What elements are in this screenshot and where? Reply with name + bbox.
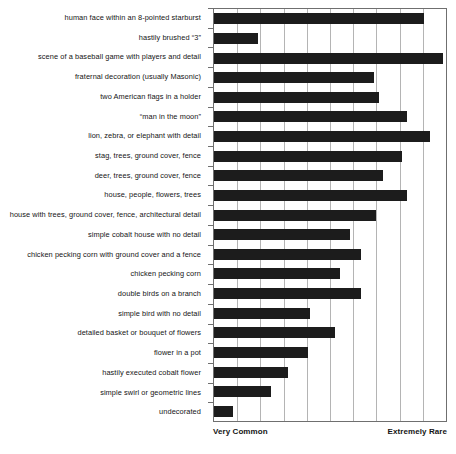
bar-row	[214, 107, 446, 127]
category-label: detailed basket or bouquet of flowers	[0, 324, 207, 344]
category-label: house, people, flowers, trees	[0, 185, 207, 205]
tick-slot	[205, 324, 213, 344]
bar-row	[214, 68, 446, 88]
tick-slot	[205, 245, 213, 265]
bar-row	[214, 88, 446, 108]
bar	[214, 170, 383, 181]
category-label: flower in a pot	[0, 343, 207, 363]
bar-row	[214, 343, 446, 363]
axis-caption-right: Extremely Rare	[388, 427, 447, 436]
category-label: simple swirl or geometric lines	[0, 383, 207, 403]
bar-row	[214, 225, 446, 245]
category-label: two American flags in a holder	[0, 87, 207, 107]
bar	[214, 367, 288, 378]
bar	[214, 386, 271, 397]
tick-slot	[205, 343, 213, 363]
tick-slot	[205, 126, 213, 146]
category-label: hastily brushed “3”	[0, 28, 207, 48]
tick-slot	[205, 87, 213, 107]
bar	[214, 33, 258, 44]
category-label: house with trees, ground cover, fence, a…	[0, 205, 207, 225]
category-label: simple cobalt house with no detail	[0, 225, 207, 245]
tick-slot	[205, 8, 213, 28]
category-label: human face within an 8-pointed starburst	[0, 8, 207, 28]
bar	[214, 190, 407, 201]
bar	[214, 288, 361, 299]
bar-row	[214, 264, 446, 284]
bar	[214, 72, 374, 83]
bar-row	[214, 284, 446, 304]
bar	[214, 406, 233, 417]
tick-slot	[205, 402, 213, 422]
tick-slot	[205, 225, 213, 245]
category-label: deer, trees, ground cover, fence	[0, 166, 207, 186]
category-label: hastily executed cobalt flower	[0, 363, 207, 383]
tick-slot	[205, 185, 213, 205]
category-label: chicken pecking corn with ground cover a…	[0, 245, 207, 265]
bar	[214, 229, 350, 240]
category-label: chicken pecking corn	[0, 264, 207, 284]
bar	[214, 131, 430, 142]
category-label: simple bird with no detail	[0, 304, 207, 324]
bar-row	[214, 362, 446, 382]
category-label: fraternal decoration (usually Masonic)	[0, 67, 207, 87]
bar	[214, 210, 376, 221]
tick-slot	[205, 28, 213, 48]
bar	[214, 92, 379, 103]
category-label: undecorated	[0, 402, 207, 422]
tick-slot	[205, 205, 213, 225]
bar-row	[214, 402, 446, 422]
bar	[214, 111, 407, 122]
bar-row	[214, 205, 446, 225]
bar	[214, 249, 361, 260]
axis-caption-left: Very Common	[213, 427, 268, 436]
tick-slot	[205, 67, 213, 87]
category-label: stag, trees, ground cover, fence	[0, 146, 207, 166]
tick-slot	[205, 363, 213, 383]
category-label-column: human face within an 8-pointed starburst…	[0, 8, 207, 422]
bar-row	[214, 186, 446, 206]
tick-slot	[205, 107, 213, 127]
bar	[214, 347, 308, 358]
category-label: double birds on a branch	[0, 284, 207, 304]
bar-row	[214, 245, 446, 265]
bar	[214, 151, 402, 162]
bar-row	[214, 382, 446, 402]
bar	[214, 53, 443, 64]
bar-row	[214, 146, 446, 166]
bar-row	[214, 48, 446, 68]
bar	[214, 308, 310, 319]
bar	[214, 327, 335, 338]
bar	[214, 13, 424, 24]
bar-row	[214, 9, 446, 29]
bar	[214, 268, 340, 279]
horizontal-bar-chart: human face within an 8-pointed starburst…	[0, 0, 456, 454]
tick-slot	[205, 284, 213, 304]
bar-row	[214, 29, 446, 49]
bar-row	[214, 303, 446, 323]
category-label: lion, zebra, or elephant with detail	[0, 126, 207, 146]
bar-series	[214, 9, 446, 421]
plot-area	[213, 8, 447, 422]
tick-slot	[205, 47, 213, 67]
axis-tick-column	[205, 8, 213, 422]
category-label: “man in the moon”	[0, 107, 207, 127]
category-label: scene of a baseball game with players an…	[0, 47, 207, 67]
tick-slot	[205, 264, 213, 284]
axis-caption-row: Very Common Extremely Rare	[213, 427, 447, 436]
tick-slot	[205, 146, 213, 166]
bar-row	[214, 166, 446, 186]
bar-row	[214, 127, 446, 147]
bar-row	[214, 323, 446, 343]
tick-slot	[205, 383, 213, 403]
tick-slot	[205, 304, 213, 324]
tick-slot	[205, 166, 213, 186]
